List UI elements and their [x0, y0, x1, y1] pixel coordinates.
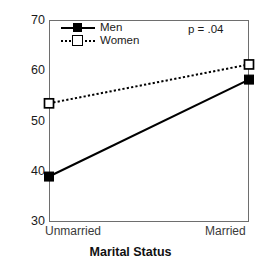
x-tick-label-unmarried: Unmarried	[45, 224, 101, 238]
legend-label-women: Women	[100, 34, 139, 47]
y-tick-label-30: 30	[21, 215, 45, 227]
chart-legend: Men Women	[61, 21, 147, 47]
legend-label-men: Men	[100, 21, 122, 34]
y-tick-label-50: 50	[21, 115, 45, 127]
plot-area	[49, 20, 249, 222]
x-axis-title: Marital Status	[0, 245, 261, 259]
legend-item-women: Women	[61, 34, 147, 47]
legend-sample-women	[61, 34, 95, 47]
x-tick-label-married: Married	[205, 224, 246, 238]
chart-figure: Percentage Expectation to Never Move 70 …	[0, 0, 261, 269]
y-tick-label-70: 70	[21, 14, 45, 26]
legend-sample-men	[61, 21, 95, 34]
y-tick-label-60: 60	[21, 64, 45, 76]
open-square-icon	[72, 35, 83, 46]
filled-square-icon	[73, 23, 82, 32]
y-tick-label-40: 40	[21, 165, 45, 177]
legend-item-men: Men	[61, 21, 147, 34]
p-value-annotation: p = .04	[188, 23, 224, 35]
